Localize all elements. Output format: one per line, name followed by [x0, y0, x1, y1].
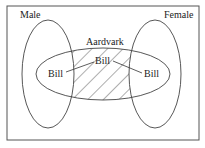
bill-left-label: Bill	[48, 68, 63, 79]
venn-diagram: Male Female Aardvark Bill Bill Bill	[0, 0, 205, 148]
female-label: Female	[164, 9, 194, 20]
bill-right-label: Bill	[144, 68, 159, 79]
bill-center-label: Bill	[95, 55, 110, 66]
male-label: Male	[20, 9, 41, 20]
aardvark-label: Aardvark	[86, 36, 124, 47]
